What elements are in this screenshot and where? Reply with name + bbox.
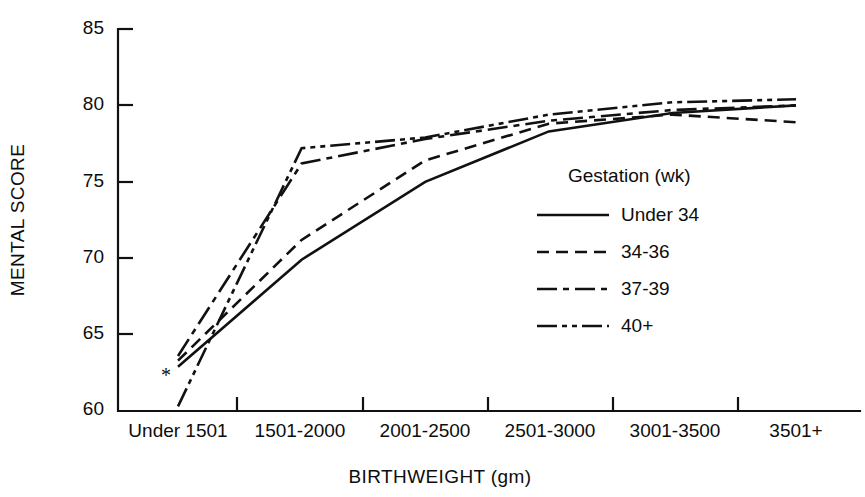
- y-tick-label: 85: [83, 17, 104, 38]
- legend-items: Under 3434-3637-3940+: [537, 204, 700, 336]
- legend-label: 34-36: [621, 241, 670, 262]
- series-line: [178, 99, 796, 406]
- y-axis-ticks: [118, 29, 133, 334]
- series-line: [178, 105, 796, 366]
- line-chart-svg: MENTAL SCORE 85 80 75 70 65 60: [0, 0, 865, 497]
- x-tick-label: 3501+: [769, 420, 822, 441]
- x-tick-label: 2501-3000: [505, 420, 596, 441]
- y-axis-tick-labels: 85 80 75 70 65 60: [83, 17, 104, 419]
- axis-spines: [118, 29, 860, 411]
- y-tick-label: 60: [83, 398, 104, 419]
- legend-title: Gestation (wk): [568, 165, 690, 186]
- y-tick-label: 75: [83, 170, 104, 191]
- legend-label: 40+: [621, 315, 653, 336]
- x-tick-label: 2001-2500: [380, 420, 471, 441]
- legend-label: Under 34: [621, 204, 700, 225]
- y-axis-title: MENTAL SCORE: [7, 144, 28, 297]
- x-tick-label: 3001-3500: [630, 420, 721, 441]
- legend: Gestation (wk) Under 3434-3637-3940+: [537, 165, 700, 336]
- y-tick-label: 70: [83, 246, 104, 267]
- series-line: [178, 115, 796, 361]
- asterisk-annotation: *: [161, 364, 171, 386]
- x-tick-label: Under 1501: [128, 420, 227, 441]
- chart-container: MENTAL SCORE 85 80 75 70 65 60: [0, 0, 865, 497]
- y-tick-label: 65: [83, 322, 104, 343]
- y-tick-label: 80: [83, 93, 104, 114]
- legend-label: 37-39: [621, 278, 670, 299]
- x-axis-tick-labels: Under 1501 1501-2000 2001-2500 2501-3000…: [128, 420, 822, 441]
- x-axis-ticks: [237, 397, 738, 411]
- x-tick-label: 1501-2000: [255, 420, 346, 441]
- x-axis-title: BIRTHWEIGHT (gm): [348, 466, 531, 487]
- data-series-group: [178, 99, 796, 406]
